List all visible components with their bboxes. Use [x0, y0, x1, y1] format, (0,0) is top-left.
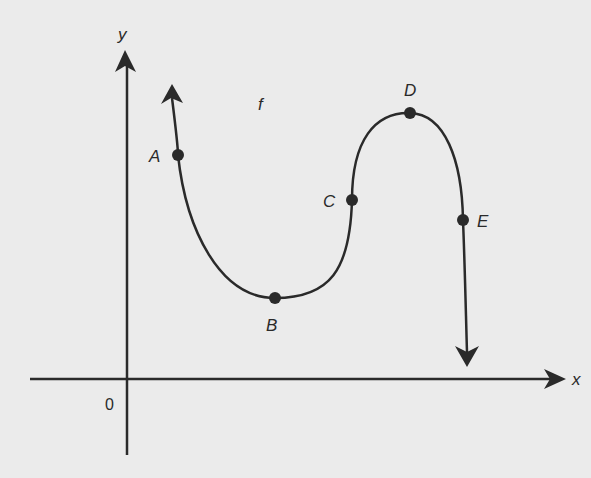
y-axis-label: y: [117, 25, 128, 44]
y-axis-arrow-icon: [115, 50, 136, 72]
point-b: [269, 292, 281, 304]
point-a: [172, 149, 184, 161]
point-e: [457, 214, 469, 226]
function-graph: A B C D E f y x 0: [0, 0, 591, 478]
point-d: [404, 107, 416, 119]
label-e: E: [477, 212, 489, 231]
label-c: C: [323, 192, 336, 211]
origin-label: 0: [105, 396, 114, 413]
function-curve: [172, 98, 467, 352]
x-axis-label: x: [571, 370, 581, 389]
function-label: f: [258, 95, 265, 114]
label-b: B: [266, 316, 277, 335]
point-c: [346, 194, 358, 206]
label-d: D: [404, 81, 416, 100]
label-a: A: [148, 147, 160, 166]
